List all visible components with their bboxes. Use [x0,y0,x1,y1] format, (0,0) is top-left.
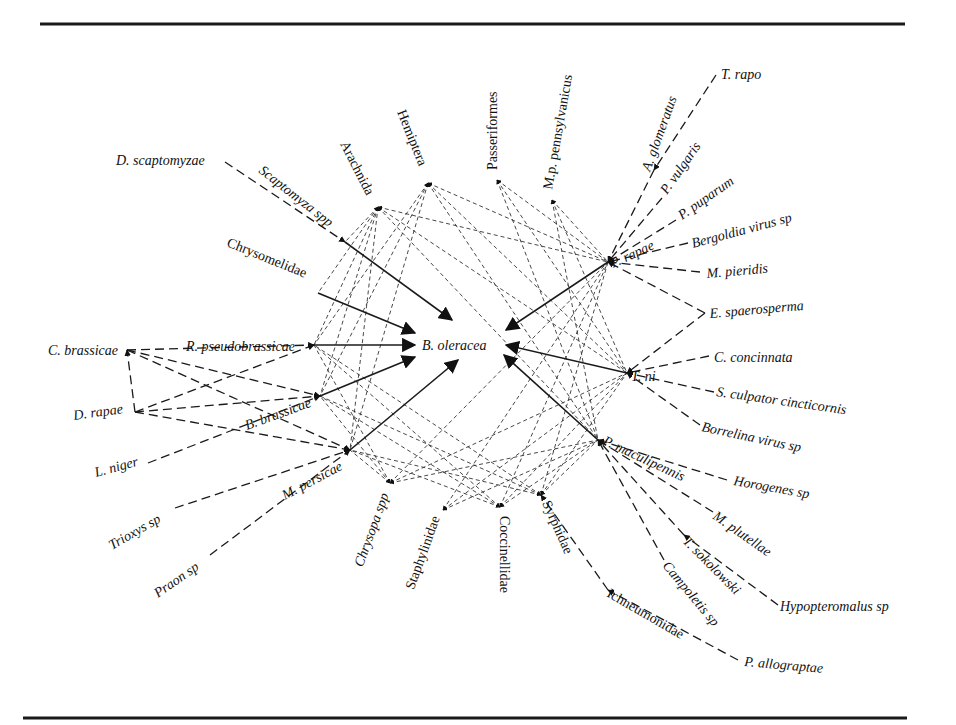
species-label-arach: Arachnida [337,139,377,198]
predation-edge-mpp-tni [552,200,627,373]
species-label-staph: Staphylinidae [402,514,442,591]
food-web-diagram: B. oleraceaScaptomyza sppChrysomelidaeR.… [0,0,956,725]
species-label-ppup: P. puparum [674,173,736,223]
parasitism-edge-drapae-cbrass [127,350,135,412]
parasitism-edge-espaer-prapae [608,262,705,313]
herbivory-arrow-1 [318,293,415,333]
species-label-dscapto: D. scaptomyzae [115,153,205,168]
species-label-rpseudo: R. pseudobrassicae [185,339,295,354]
species-label-borrel: Borrelina virus sp [700,419,802,455]
parasitism-edge-espaer-tni [627,313,705,373]
herbivory-arrow-0 [345,242,452,320]
predation-edge-syrph-prapae [541,262,608,495]
predation-edge-syrph-pmacu [541,440,598,495]
predation-edge-syrph-rpseudo [314,345,541,495]
species-label-chrysopa: Chrysopa spp [351,491,392,569]
species-label-mpieri: M. pieridis [705,261,769,281]
species-label-pallo: P. allograptae [743,654,824,676]
predation-edge-arach-scapto [345,207,378,242]
species-label-mpp: M.p. pennsylvanicus [540,73,575,190]
parasitism-edge-cbrass-bbrass [127,350,320,396]
parasitism-edge-drapae-mpers [135,412,350,450]
herbivory-arrow-6 [506,345,627,373]
species-label-drapae: D. rapae [71,401,123,423]
species-label-prapae: P. rapae [607,238,656,272]
predation-edge-chrysopa-rpseudo [314,345,390,483]
species-label-chryso: Chrysomelidae [225,235,309,281]
species-label-mpers: M. persicae [278,458,344,503]
species-label-scapto: Scaptomyza spp [256,163,336,230]
herbivory-arrow-4 [350,360,458,450]
predation-edge-passer-pmacu [497,180,598,440]
predation-edge-arach-pmacu [378,207,598,440]
species-label-syrph: Syrphidae [539,498,576,556]
species-label-sculp: S. culpator cincticornis [716,384,848,417]
species-label-pvulg: P. vulgaris [657,139,704,198]
species-label-trapo: T. rapo [721,67,761,82]
predation-edge-hemip-rpseudo [314,183,428,345]
species-label-espaer: E. spaerosperma [708,298,804,321]
species-label-ichneu: Ichneumonidae [605,586,687,642]
predation-edge-hemip-prapae [428,183,608,262]
predation-edge-cocci-mpers [350,450,500,507]
species-label-mplut: M. plutellae [709,508,774,560]
species-label-hypop: Hypopteromalus sp [779,599,889,614]
species-label-lniger: L. niger [92,454,140,480]
predation-edge-arach-prapae [378,207,608,262]
species-label-cbrass: C. brassicae [48,343,118,358]
species-label-boleracea: B. oleracea [422,338,487,353]
species-label-pmacu: P. maculipennis [600,433,688,485]
predation-edge-syrph-tni [541,373,627,495]
species-label-horog: Horogenes sp [731,473,810,501]
species-label-cconc: C. concinnata [714,350,793,365]
predation-edge-staph-prapae [443,262,608,510]
predation-edge-syrph-bbrass [320,396,541,495]
predation-edge-mpp-prapae [552,200,608,262]
predation-edge-arach-bbrass [320,207,378,396]
species-label-tni: T. ni [631,369,656,384]
parasitism-edge-cbrass-mpers [127,350,350,450]
species-labels: B. oleraceaScaptomyza sppChrysomelidaeR.… [48,67,889,676]
predation-edge-syrph-mpers [350,450,541,495]
species-label-bbrass: B. brassicae [243,395,313,433]
predation-edge-arach-tni [378,207,627,373]
species-label-praon: Praon sp [150,559,201,601]
predation-edge-passer-tni [497,180,627,373]
predation-edge-chrysopa-prapae [390,262,608,483]
parasitism-edge-dscapto-scapto [225,162,345,242]
species-label-cocci: Coccinellidae [497,516,512,593]
species-label-hemip: Hemiptera [394,108,430,169]
species-label-passer: Passeriformes [485,91,500,170]
predation-edge-cocci-rpseudo [314,345,500,507]
predation-edge-chrysopa-tni [390,373,627,483]
species-label-bergol: Bergoldia virus sp [690,210,793,251]
species-label-trioxys: Trioxys sp [106,511,163,553]
